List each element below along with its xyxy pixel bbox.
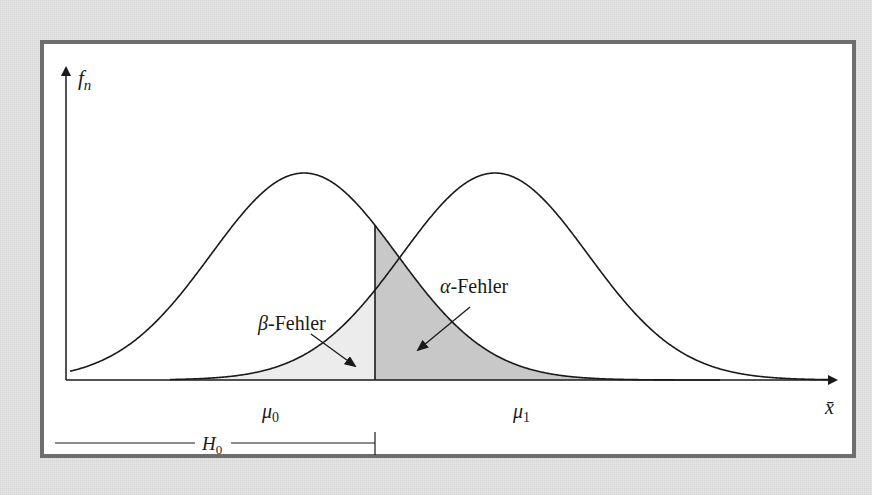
alpha-error-area bbox=[375, 225, 720, 380]
alpha-error-label: α-Fehler bbox=[440, 275, 509, 297]
mu0-label: μ0 bbox=[261, 400, 279, 425]
y-axis-label: fn bbox=[78, 66, 91, 93]
x-axis-label: x̄ bbox=[824, 396, 834, 418]
mu1-label: μ1 bbox=[512, 400, 530, 425]
h0-region-label: H0 bbox=[201, 433, 222, 457]
beta-error-label: β-Fehler bbox=[257, 312, 326, 335]
hypothesis-test-diagram: fn x̄ μ0 μ1 α-Fehler β-Fehler H0 bbox=[0, 0, 872, 495]
beta-error-area bbox=[170, 290, 375, 380]
